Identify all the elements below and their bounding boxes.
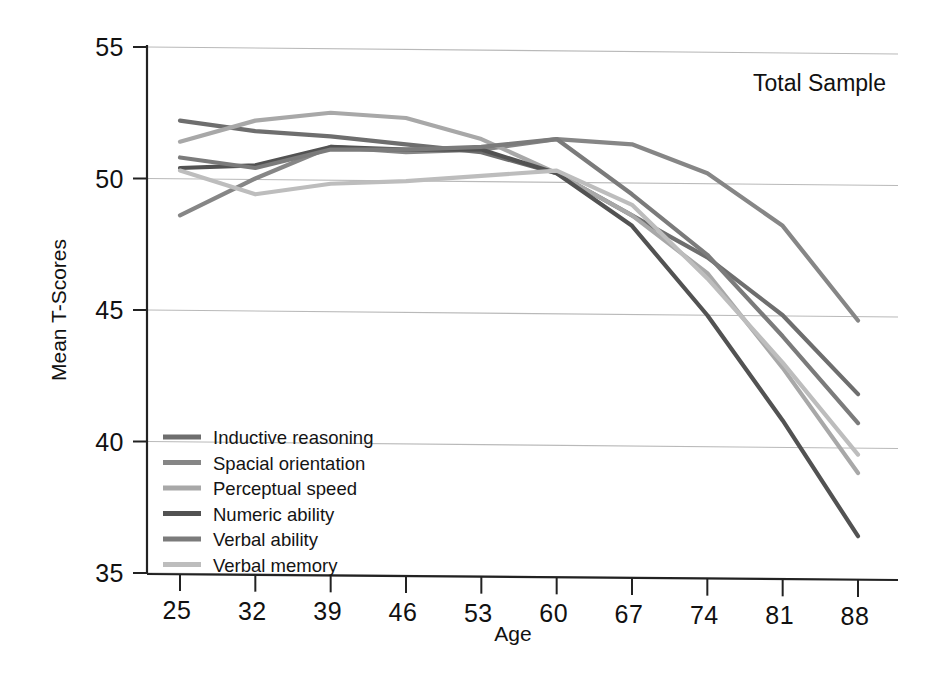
legend-label-verbal-memory: Verbal memory xyxy=(213,555,338,576)
x-tick-label-74: 74 xyxy=(690,601,719,629)
gridlines xyxy=(147,47,898,580)
y-tick-label-50: 50 xyxy=(95,165,124,193)
x-tick-label-46: 46 xyxy=(389,598,418,626)
chart-annotation-total-sample: Total Sample xyxy=(753,70,886,96)
legend-label-spacial-orientation: Spacial orientation xyxy=(213,453,365,474)
chart-figure: 25323946536067748188 3540455055 Age Mean… xyxy=(0,0,944,681)
x-tick-label-60: 60 xyxy=(539,599,568,627)
series-line-verbal-memory xyxy=(180,171,858,455)
legend-label-perceptual-speed: Perceptual speed xyxy=(213,478,357,499)
legend-label-verbal-ability: Verbal ability xyxy=(213,529,319,550)
x-tick-label-32: 32 xyxy=(238,597,267,625)
gridline-50 xyxy=(147,179,898,186)
x-axis-title: Age xyxy=(494,622,531,645)
x-tick-label-53: 53 xyxy=(464,599,493,627)
legend-label-numeric-ability: Numeric ability xyxy=(213,504,335,525)
chart-legend: Inductive reasoningSpacial orientationPe… xyxy=(163,427,373,576)
axes xyxy=(147,45,898,580)
y-axis-ticks xyxy=(133,47,147,573)
y-tick-label-45: 45 xyxy=(95,296,124,324)
x-tick-label-39: 39 xyxy=(313,597,342,625)
y-axis-tick-labels: 3540455055 xyxy=(95,33,124,587)
x-tick-label-25: 25 xyxy=(163,596,192,624)
legend-label-inductive-reasoning: Inductive reasoning xyxy=(213,427,373,448)
y-tick-label-40: 40 xyxy=(95,428,124,456)
x-tick-label-88: 88 xyxy=(841,602,870,630)
y-axis-title: Mean T-Scores xyxy=(47,239,70,381)
y-tick-label-35: 35 xyxy=(95,559,124,587)
x-tick-label-81: 81 xyxy=(765,601,794,629)
gridline-55 xyxy=(147,47,898,54)
y-tick-label-55: 55 xyxy=(95,33,124,61)
x-tick-label-67: 67 xyxy=(615,600,644,628)
line-chart: 25323946536067748188 3540455055 Age Mean… xyxy=(0,0,944,681)
